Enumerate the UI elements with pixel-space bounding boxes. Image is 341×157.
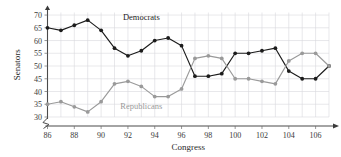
data-point-democrats <box>126 54 130 58</box>
data-point-republicans <box>166 95 170 99</box>
y-tick-label: 60 <box>34 37 42 46</box>
data-point-republicans <box>113 82 117 86</box>
x-axis-title: Congress <box>172 142 206 152</box>
series-label-republicans: Republicans <box>120 101 162 111</box>
data-point-democrats <box>180 44 184 48</box>
x-tick-label: 96 <box>178 131 186 140</box>
data-point-democrats <box>113 46 117 50</box>
data-point-republicans <box>126 79 130 83</box>
x-axis-arrow <box>333 123 339 128</box>
data-point-democrats <box>139 49 143 53</box>
y-tick-label: 30 <box>34 113 42 122</box>
data-point-republicans <box>206 54 210 58</box>
data-point-democrats <box>86 18 90 22</box>
x-tick-label: 100 <box>229 131 241 140</box>
data-point-democrats <box>193 74 197 78</box>
data-point-democrats <box>260 49 264 53</box>
data-point-democrats <box>153 39 157 43</box>
x-tick-label: 94 <box>151 131 159 140</box>
axis-break-symbol <box>43 118 49 129</box>
data-point-democrats <box>314 77 318 81</box>
y-tick-label: 40 <box>34 88 42 97</box>
data-point-republicans <box>287 59 291 63</box>
data-point-republicans <box>314 51 318 55</box>
x-tick-labels-group: 86889092949698100102104106 <box>44 131 322 140</box>
y-axis-arrow <box>45 6 50 11</box>
data-point-republicans <box>59 100 63 104</box>
data-point-republicans <box>327 64 331 68</box>
data-point-republicans <box>72 105 76 109</box>
x-tick-label: 104 <box>283 131 295 140</box>
x-tick-label: 102 <box>256 131 268 140</box>
data-point-republicans <box>86 110 90 114</box>
y-axis-title: Senators <box>12 49 22 80</box>
data-point-democrats <box>46 26 50 30</box>
series-label-democrats: Democrats <box>123 12 160 22</box>
x-tick-label: 106 <box>310 131 322 140</box>
data-point-democrats <box>99 28 103 32</box>
x-tick-label: 86 <box>44 131 52 140</box>
data-point-democrats <box>220 72 224 76</box>
x-tick-label: 88 <box>70 131 78 140</box>
y-tick-label: 55 <box>34 49 42 58</box>
y-tick-label: 50 <box>34 62 42 71</box>
data-point-republicans <box>300 51 304 55</box>
data-point-republicans <box>273 82 277 86</box>
data-point-democrats <box>206 74 210 78</box>
data-point-republicans <box>193 56 197 60</box>
data-point-republicans <box>153 95 157 99</box>
data-point-republicans <box>260 79 264 83</box>
data-point-republicans <box>99 100 103 104</box>
x-tick-label: 90 <box>97 131 105 140</box>
y-tick-label: 35 <box>34 100 42 109</box>
series-line-democrats <box>48 20 330 79</box>
data-point-democrats <box>166 36 170 40</box>
data-point-republicans <box>46 102 50 106</box>
data-point-republicans <box>139 85 143 89</box>
data-point-republicans <box>220 56 224 60</box>
chart-canvas: 86889092949698100102104106 3035404550556… <box>0 0 341 157</box>
data-point-republicans <box>233 77 237 81</box>
data-point-democrats <box>233 51 237 55</box>
x-tick-label: 92 <box>124 131 132 140</box>
data-point-democrats <box>300 77 304 81</box>
y-tick-label: 70 <box>34 11 42 20</box>
data-point-democrats <box>273 46 277 50</box>
data-point-democrats <box>72 23 76 27</box>
y-tick-label: 45 <box>34 75 42 84</box>
data-point-republicans <box>180 87 184 91</box>
data-point-republicans <box>247 77 251 81</box>
y-tick-labels-group: 303540455055606570 <box>34 11 42 122</box>
data-point-democrats <box>59 28 63 32</box>
senate-composition-chart: 86889092949698100102104106 3035404550556… <box>0 0 341 157</box>
data-point-democrats <box>247 51 251 55</box>
x-tick-label: 98 <box>204 131 212 140</box>
y-tick-label: 65 <box>34 24 42 33</box>
data-point-democrats <box>287 69 291 73</box>
